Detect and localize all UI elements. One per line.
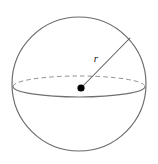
radius-line <box>81 38 130 88</box>
sphere-outline-circle <box>12 17 146 151</box>
sphere-center-dot <box>77 84 84 91</box>
equator-dashed-back-half <box>13 76 145 87</box>
sphere-diagram-canvas: r <box>0 0 158 164</box>
radius-label: r <box>94 52 99 64</box>
sphere-diagram-svg: r <box>0 0 158 164</box>
